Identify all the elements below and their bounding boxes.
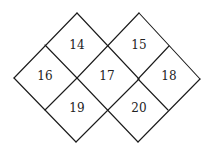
cell-label-14: 14 xyxy=(69,38,85,52)
cell-label-19: 19 xyxy=(69,101,84,115)
cell-label-20: 20 xyxy=(131,101,146,115)
cell-label-17: 17 xyxy=(99,69,114,83)
cell-label-18: 18 xyxy=(161,69,176,83)
diamond-grid-diagram: 14 15 16 17 18 19 20 xyxy=(0,0,212,153)
cell-label-16: 16 xyxy=(37,69,52,83)
cell-label-15: 15 xyxy=(131,38,146,52)
cell-labels: 14 15 16 17 18 19 20 xyxy=(37,38,176,115)
